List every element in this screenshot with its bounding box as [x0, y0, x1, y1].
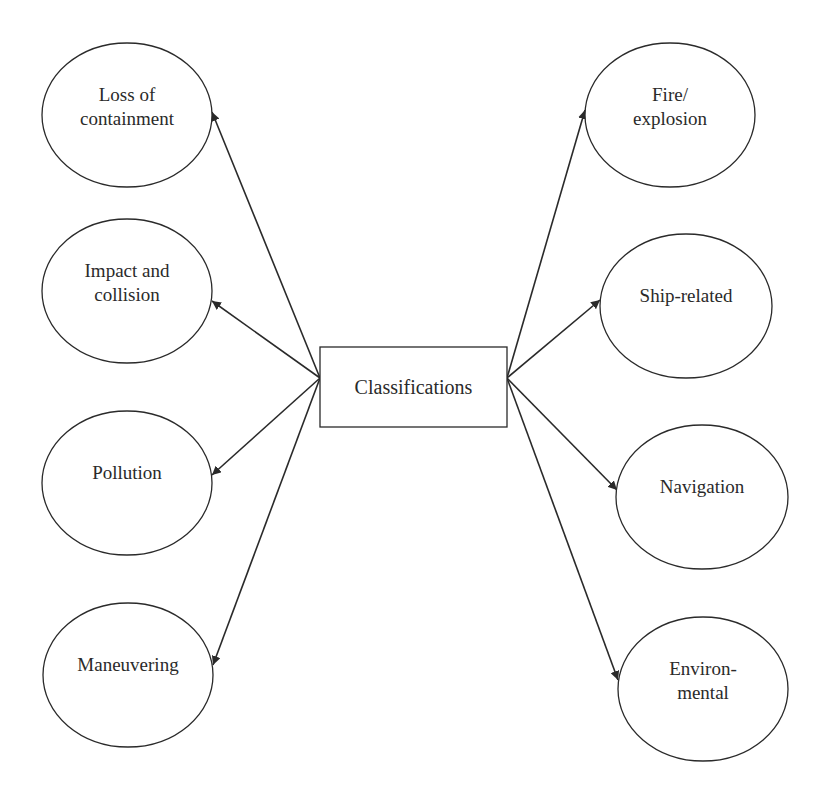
arrow-to-fire-explosion [507, 110, 585, 378]
classification-diagram: Loss ofcontainmentImpact andcollisionPol… [0, 0, 829, 790]
arrow-to-pollution [212, 378, 320, 475]
environmental-label-line: Environ- [669, 658, 737, 679]
arrow-to-maneuvering [213, 378, 320, 665]
arrow-to-navigation [507, 378, 617, 490]
pollution-label-line: Pollution [92, 462, 162, 483]
arrow-to-environmental [507, 378, 618, 680]
node-loss-of-containment: Loss ofcontainment [42, 43, 212, 187]
navigation-ellipse [616, 425, 788, 569]
navigation-label-line: Navigation [660, 476, 745, 497]
ship-related-ellipse [600, 234, 772, 378]
node-impact-and-collision: Impact andcollision [42, 219, 212, 363]
impact-and-collision-label-line: collision [94, 284, 160, 305]
arrow-to-loss-of-containment [212, 112, 320, 378]
fire-explosion-label-line: explosion [633, 108, 707, 129]
classifications-label: Classifications [355, 376, 473, 398]
pollution-ellipse [42, 411, 212, 555]
arrow-to-ship-related [507, 300, 600, 378]
maneuvering-label-line: Maneuvering [77, 654, 179, 675]
loss-of-containment-label-line: containment [80, 108, 175, 129]
node-environmental: Environ-mental [618, 617, 788, 761]
center-node-classifications: Classifications [320, 347, 507, 427]
ship-related-label-line: Ship-related [640, 285, 733, 306]
node-pollution: Pollution [42, 411, 212, 555]
loss-of-containment-label-line: Loss of [99, 84, 156, 105]
maneuvering-ellipse [43, 603, 213, 747]
node-maneuvering: Maneuvering [43, 603, 213, 747]
impact-and-collision-label-line: Impact and [85, 260, 170, 281]
node-navigation: Navigation [616, 425, 788, 569]
node-ship-related: Ship-related [600, 234, 772, 378]
node-fire-explosion: Fire/explosion [585, 43, 755, 187]
environmental-label-line: mental [677, 682, 729, 703]
fire-explosion-label-line: Fire/ [652, 84, 689, 105]
